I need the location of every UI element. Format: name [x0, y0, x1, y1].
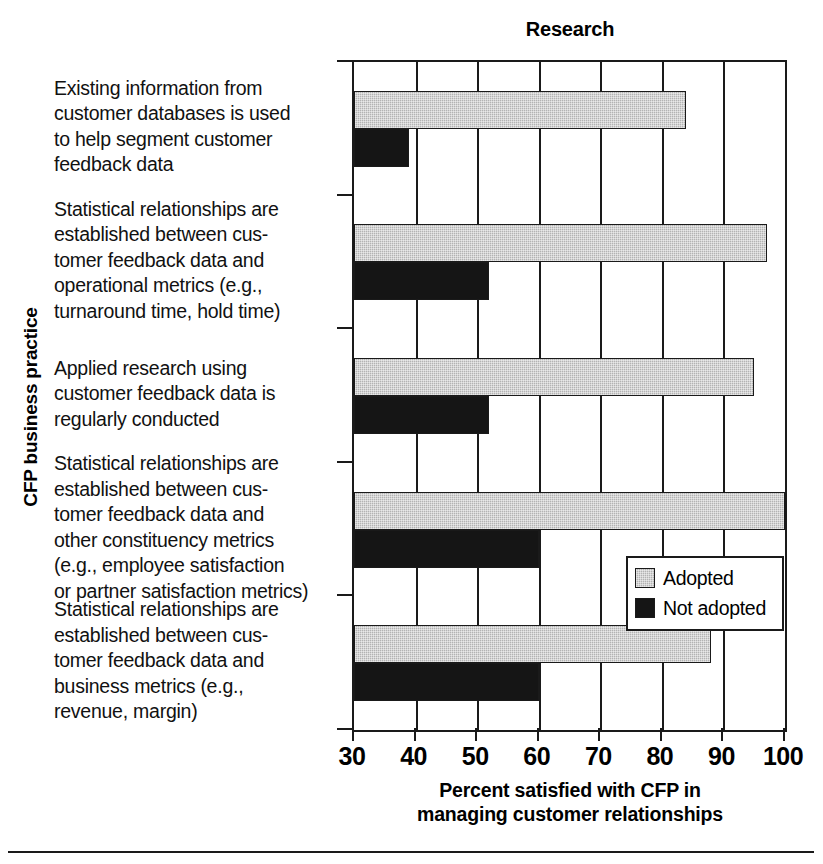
category-label-2: Applied research usingcustomer feedback …: [54, 356, 344, 433]
category-label-4: Statistical relationships areestablished…: [54, 597, 344, 725]
x-tick-70: [598, 728, 600, 741]
x-tick-label-30: 30: [317, 742, 387, 771]
category-label-3: Statistical relationships areestablished…: [54, 451, 344, 604]
bar-not-adopted-0: [354, 129, 409, 167]
x-axis-title: Percent satisfied with CFP inmanaging cu…: [330, 778, 810, 826]
category-label-0: Existing information fromcustomer databa…: [54, 76, 344, 178]
bar-not-adopted-4: [354, 663, 539, 701]
x-tick-label-80: 80: [625, 742, 695, 771]
x-tick-50: [475, 728, 477, 741]
x-tick-label-100: 100: [748, 742, 818, 771]
footer-rule: [8, 851, 814, 853]
legend-item-not-adopted: Not adopted: [635, 593, 775, 623]
chart-title: Research: [355, 18, 785, 41]
x-tick-label-50: 50: [440, 742, 510, 771]
x-tick-label-60: 60: [502, 742, 572, 771]
x-tick-80: [660, 728, 662, 741]
x-tick-90: [721, 728, 723, 741]
chart-figure: Research CFP business practice Existing …: [0, 0, 823, 864]
y-tick-1: [337, 194, 352, 196]
legend-swatch-adopted-icon: [635, 568, 655, 588]
bar-adopted-3: [354, 492, 785, 530]
x-tick-60: [537, 728, 539, 741]
y-tick-0: [337, 60, 352, 62]
x-tick-100: [783, 728, 785, 741]
y-tick-5: [337, 728, 352, 730]
y-axis-title: CFP business practice: [20, 292, 42, 522]
legend-swatch-not-adopted-icon: [635, 598, 655, 618]
x-tick-label-90: 90: [686, 742, 756, 771]
chart-legend: Adopted Not adopted: [626, 556, 784, 631]
x-tick-30: [352, 728, 354, 741]
y-tick-3: [337, 461, 352, 463]
legend-label-not-adopted: Not adopted: [663, 597, 766, 620]
bar-not-adopted-1: [354, 262, 489, 300]
bar-adopted-1: [354, 224, 767, 262]
y-tick-4: [337, 594, 352, 596]
bar-adopted-0: [354, 91, 686, 129]
legend-label-adopted: Adopted: [663, 567, 734, 590]
category-label-column: Existing information fromcustomer databa…: [54, 60, 344, 728]
bar-not-adopted-3: [354, 530, 539, 568]
x-tick-40: [414, 728, 416, 741]
category-label-1: Statistical relationships areestablished…: [54, 197, 344, 325]
x-tick-label-70: 70: [563, 742, 633, 771]
legend-item-adopted: Adopted: [635, 563, 775, 593]
plot-area: [352, 60, 787, 732]
x-tick-label-40: 40: [379, 742, 449, 771]
y-tick-2: [337, 327, 352, 329]
bar-adopted-2: [354, 358, 754, 396]
bar-not-adopted-2: [354, 396, 489, 434]
